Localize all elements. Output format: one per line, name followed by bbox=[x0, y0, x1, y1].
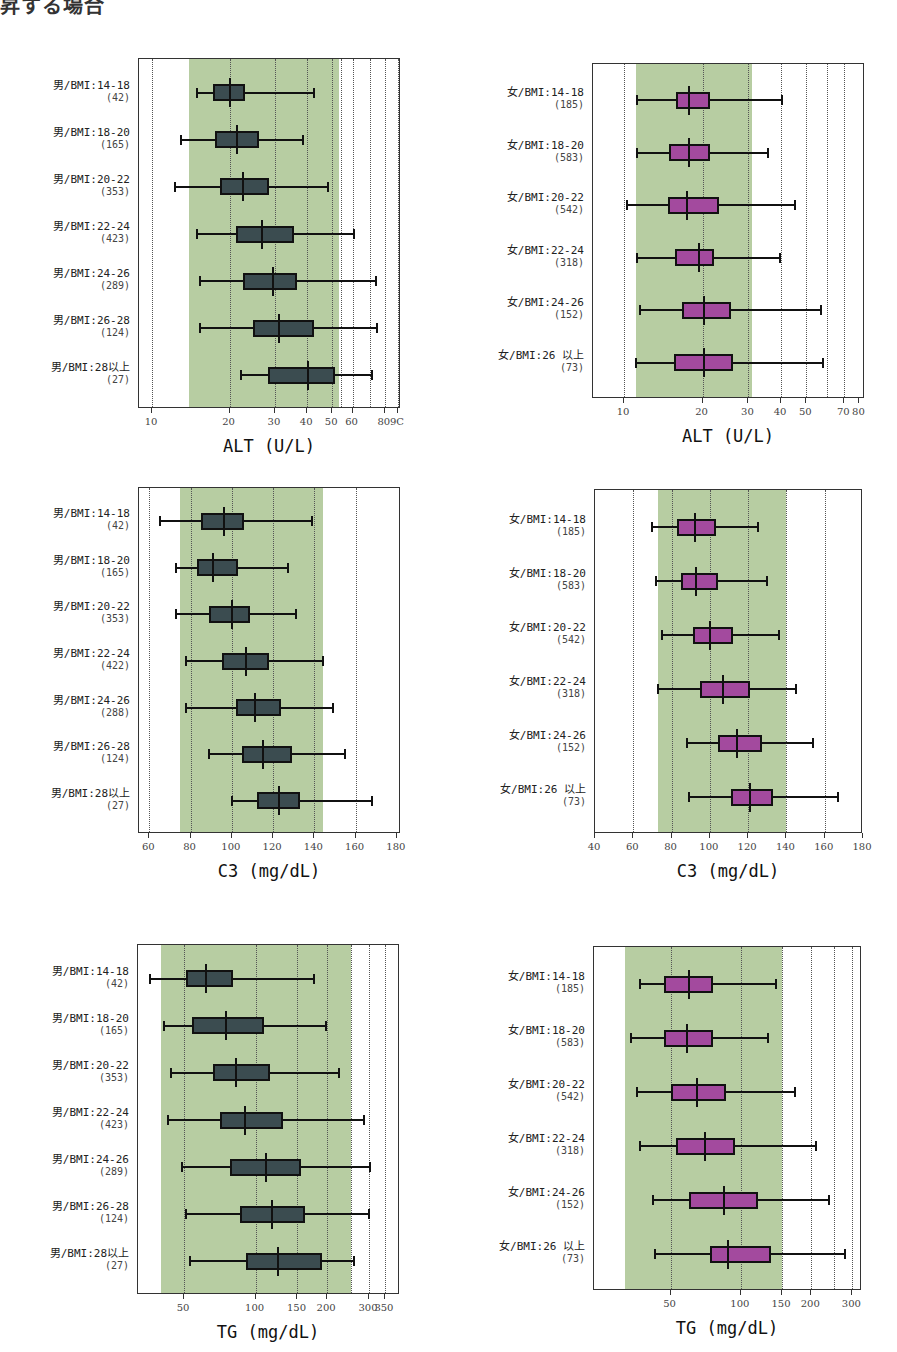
median-line bbox=[278, 314, 280, 343]
row-label: 女/BMI:22-24(318) bbox=[474, 676, 586, 700]
median-line bbox=[244, 1106, 246, 1135]
x-axis-title: ALT (U/L) bbox=[223, 436, 315, 456]
group-label: 男/BMI:26-28 bbox=[53, 314, 130, 327]
group-count: (165) bbox=[18, 139, 130, 151]
gridline bbox=[748, 490, 749, 832]
whisker-cap bbox=[240, 370, 242, 380]
plot-area bbox=[592, 63, 864, 398]
iqr-box bbox=[186, 970, 232, 987]
x-axis-title: ALT (U/L) bbox=[682, 426, 774, 446]
group-label: 女/BMI:24-26 bbox=[507, 296, 584, 309]
iqr-box bbox=[681, 573, 717, 590]
whisker-cap bbox=[175, 563, 177, 573]
gridline bbox=[806, 64, 807, 397]
median-line bbox=[696, 1078, 698, 1107]
group-label: 男/BMI:20-22 bbox=[52, 1059, 129, 1072]
row-label: 男/BMI:18-20(165) bbox=[18, 555, 130, 579]
row-label: 男/BMI:20-22(353) bbox=[18, 174, 130, 198]
median-line bbox=[704, 1132, 706, 1161]
whisker-cap bbox=[159, 516, 161, 526]
group-label: 女/BMI:20-22 bbox=[509, 621, 586, 634]
group-label: 女/BMI:14-18 bbox=[508, 970, 585, 983]
axis-tick bbox=[810, 1290, 811, 1295]
axis-tick bbox=[183, 1294, 184, 1299]
axis-tick-label: 150 bbox=[287, 1302, 306, 1313]
gridline bbox=[369, 945, 370, 1293]
axis-tick bbox=[397, 408, 398, 413]
median-line bbox=[723, 1186, 725, 1215]
axis-tick-label: 180 bbox=[386, 841, 405, 852]
row-label: 男/BMI:24-26(288) bbox=[18, 695, 130, 719]
reference-range-band bbox=[658, 490, 786, 832]
axis-tick bbox=[785, 833, 786, 838]
group-label: 女/BMI:18-20 bbox=[509, 567, 586, 580]
whisker-cap bbox=[363, 1115, 365, 1125]
axis-tick bbox=[355, 833, 356, 838]
axis-tick bbox=[747, 398, 748, 403]
group-label: 女/BMI:24-26 bbox=[508, 1186, 585, 1199]
whisker-cap bbox=[636, 95, 638, 105]
plot-area bbox=[594, 489, 862, 833]
group-count: (124) bbox=[18, 753, 130, 765]
reference-range-band bbox=[625, 947, 782, 1289]
row-label: 女/BMI:14-18(185) bbox=[473, 971, 585, 995]
median-line bbox=[703, 348, 705, 377]
row-label: 男/BMI:22-24(423) bbox=[18, 221, 130, 245]
whisker-cap bbox=[766, 576, 768, 586]
iqr-box bbox=[710, 1246, 770, 1263]
axis-tick bbox=[594, 833, 595, 838]
axis-tick-label: 160 bbox=[814, 841, 833, 852]
group-label: 男/BMI:24-26 bbox=[53, 267, 130, 280]
gridline bbox=[786, 490, 787, 832]
iqr-box bbox=[242, 746, 292, 763]
row-label: 女/BMI:20-22(542) bbox=[474, 622, 586, 646]
median-line bbox=[265, 1153, 267, 1182]
whisker-cap bbox=[369, 1162, 371, 1172]
group-count: (318) bbox=[474, 688, 586, 700]
axis-tick bbox=[851, 1290, 852, 1295]
axis-tick bbox=[824, 833, 825, 838]
whisker-cap bbox=[794, 200, 796, 210]
group-count: (152) bbox=[474, 742, 586, 754]
group-count: (542) bbox=[473, 1091, 585, 1103]
axis-tick bbox=[255, 1294, 256, 1299]
row-label: 男/BMI:28以上(27) bbox=[18, 788, 130, 812]
whisker-cap bbox=[180, 135, 182, 145]
group-label: 男/BMI:28以上 bbox=[50, 1247, 129, 1260]
whisker-cap bbox=[302, 135, 304, 145]
group-count: (185) bbox=[473, 983, 585, 995]
whisker-cap bbox=[313, 88, 315, 98]
axis-tick-label: 40 bbox=[588, 841, 601, 852]
group-count: (318) bbox=[472, 257, 584, 269]
axis-tick bbox=[747, 833, 748, 838]
axis-tick-label: 80 bbox=[664, 841, 677, 852]
whisker-cap bbox=[635, 358, 637, 368]
row-label: 女/BMI:26 以上(73) bbox=[472, 350, 584, 374]
median-line bbox=[261, 220, 263, 249]
axis-tick bbox=[190, 833, 191, 838]
whisker-cap bbox=[812, 738, 814, 748]
axis-tick-label: 10 bbox=[617, 406, 630, 417]
row-label: 男/BMI:28以上(27) bbox=[17, 1248, 129, 1272]
group-label: 女/BMI:22-24 bbox=[509, 675, 586, 688]
whisker-cap bbox=[757, 522, 759, 532]
whisker-cap bbox=[775, 979, 777, 989]
group-label: 男/BMI:14-18 bbox=[53, 507, 130, 520]
gridline bbox=[152, 59, 153, 407]
whisker-cap bbox=[199, 276, 201, 286]
whisker-cap bbox=[767, 1033, 769, 1043]
whisker-cap bbox=[163, 1021, 165, 1031]
axis-tick-label: 200 bbox=[801, 1298, 820, 1309]
group-label: 男/BMI:24-26 bbox=[52, 1153, 129, 1166]
group-label: 女/BMI:14-18 bbox=[507, 86, 584, 99]
row-label: 女/BMI:26 以上(73) bbox=[474, 784, 586, 808]
iqr-box bbox=[675, 249, 714, 266]
whisker-cap bbox=[338, 1068, 340, 1078]
group-count: (423) bbox=[17, 1119, 129, 1131]
whisker-cap bbox=[353, 1256, 355, 1266]
row-label: 女/BMI:22-24(318) bbox=[473, 1133, 585, 1157]
whisker-cap bbox=[185, 703, 187, 713]
row-label: 男/BMI:20-22(353) bbox=[18, 601, 130, 625]
axis-tick-label: 100 bbox=[699, 841, 718, 852]
row-label: 男/BMI:18-20(165) bbox=[17, 1013, 129, 1037]
